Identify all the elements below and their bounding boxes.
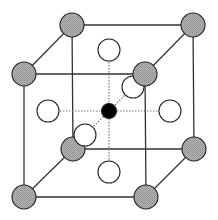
- corner-atom-back-top-left: [60, 13, 84, 37]
- edge: [72, 25, 73, 149]
- face-atom-bottom: [98, 161, 120, 183]
- unit-cell-diagram: [0, 0, 218, 220]
- body-center-atom: [102, 104, 117, 119]
- edge: [145, 74, 146, 197]
- face-atom-top: [98, 39, 120, 61]
- corner-atom-front-top-left: [12, 62, 36, 86]
- corner-atom-front-bottom-right: [134, 185, 158, 209]
- corner-atom-front-bottom-left: [12, 185, 36, 209]
- edge: [193, 25, 194, 149]
- face-atom-right: [159, 100, 181, 122]
- corner-atom-front-top-right: [133, 62, 157, 86]
- face-atom-front: [74, 124, 96, 146]
- corner-atom-back-top-right: [181, 13, 205, 37]
- face-atom-left: [37, 100, 59, 122]
- corner-atom-back-bottom-right: [182, 137, 206, 161]
